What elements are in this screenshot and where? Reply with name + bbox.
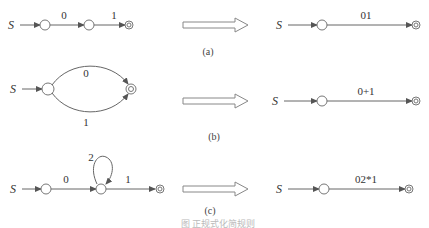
figure-caption: 图 正规式化简规则	[181, 218, 256, 228]
row-a-before: S 0 1	[8, 9, 133, 32]
row-caption: (a)	[202, 46, 213, 58]
state-node	[84, 20, 94, 30]
start-label: S	[272, 94, 278, 108]
final-state-node	[412, 97, 420, 105]
final-state-node	[405, 185, 413, 193]
state-node	[317, 96, 327, 106]
final-state-node	[412, 21, 420, 29]
edge-label: 1	[111, 9, 117, 21]
row-caption: (b)	[208, 131, 220, 143]
self-loop-label: 2	[88, 151, 94, 163]
transform-arrow-icon	[183, 182, 248, 196]
start-label: S	[10, 182, 16, 196]
state-node	[40, 20, 50, 30]
start-label: S	[8, 18, 14, 32]
row-b-after: S 0+1	[272, 85, 420, 108]
final-state-node	[125, 21, 133, 29]
row-caption: (c)	[204, 205, 215, 217]
start-label: S	[276, 18, 282, 32]
edge-label: 1	[125, 173, 131, 185]
state-node	[319, 184, 329, 194]
start-label: S	[10, 82, 16, 96]
edge-label: 02*1	[355, 173, 377, 185]
edge-label: 0	[63, 173, 69, 185]
transform-arrow-icon	[183, 18, 248, 32]
edge-label: 0	[61, 9, 67, 21]
row-c-before: S 0 2 1	[10, 151, 164, 196]
row-b-before: S 0 1	[10, 66, 136, 128]
state-node	[317, 20, 327, 30]
edge-label: 01	[361, 9, 372, 21]
transform-arrow-icon	[183, 94, 248, 108]
edge-label: 0+1	[357, 85, 374, 97]
start-label: S	[276, 182, 282, 196]
state-node	[96, 184, 106, 194]
edge-label: 1	[83, 116, 89, 128]
row-c-after: S 02*1	[276, 173, 413, 196]
final-state-node	[126, 84, 136, 94]
row-a-after: S 01	[276, 9, 420, 32]
final-state-node	[156, 185, 164, 193]
regex-simplification-diagram: S 0 1 (a) S 01 S 0 1 (b) S	[0, 0, 429, 228]
state-node	[41, 184, 51, 194]
edge-label: 0	[83, 67, 89, 79]
